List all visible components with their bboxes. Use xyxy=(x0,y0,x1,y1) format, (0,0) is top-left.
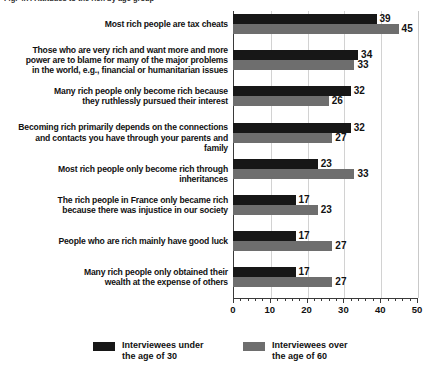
bar-group: 1727 xyxy=(233,231,417,251)
chart-legend: Interviewees under the age of 30 Intervi… xyxy=(0,340,430,380)
category-label: Many rich people only become rich becaus… xyxy=(18,86,228,106)
x-tick-44 xyxy=(395,298,396,301)
category-label: People who are rich mainly have good luc… xyxy=(18,236,228,246)
x-tick-14 xyxy=(285,298,286,301)
bar-over-60[interactable] xyxy=(233,96,329,106)
value-label-under-30: 32 xyxy=(354,86,365,96)
x-tick-label-0: 0 xyxy=(230,304,235,315)
x-axis-line xyxy=(233,298,418,299)
bar-group: 3227 xyxy=(233,123,417,143)
x-tick-label-40: 40 xyxy=(375,304,386,315)
bar-group: 2333 xyxy=(233,159,417,179)
value-label-over-60: 27 xyxy=(335,241,346,251)
x-tick-20 xyxy=(307,298,308,303)
bar-over-60[interactable] xyxy=(233,169,354,179)
bar-group: 1727 xyxy=(233,267,417,287)
bar-group: 1723 xyxy=(233,195,417,215)
value-label-under-30: 23 xyxy=(321,159,332,169)
category-label: The rich people in France only became ri… xyxy=(18,195,228,215)
x-tick-label-30: 30 xyxy=(338,304,349,315)
x-tick-38 xyxy=(373,298,374,301)
x-tick-50 xyxy=(417,298,418,303)
gridline-50 xyxy=(418,11,419,298)
value-label-over-60: 27 xyxy=(335,277,346,287)
x-tick-26 xyxy=(329,298,330,301)
bar-under-30[interactable] xyxy=(233,267,296,277)
x-tick-22 xyxy=(314,298,315,301)
x-tick-48 xyxy=(410,298,411,301)
bar-group: 3433 xyxy=(233,50,417,70)
value-label-under-30: 17 xyxy=(299,195,310,205)
x-tick-30 xyxy=(343,298,344,303)
legend-label-under-30: Interviewees under the age of 30 xyxy=(122,340,204,361)
x-tick-40 xyxy=(380,298,381,303)
bar-over-60[interactable] xyxy=(233,133,332,143)
bar-under-30[interactable] xyxy=(233,123,351,133)
bar-over-60[interactable] xyxy=(233,24,399,34)
value-label-under-30: 17 xyxy=(299,231,310,241)
x-tick-46 xyxy=(402,298,403,301)
legend-label-over-60: Interviewees over the age of 60 xyxy=(272,340,348,361)
x-tick-28 xyxy=(336,298,337,301)
x-tick-4 xyxy=(248,298,249,301)
x-tick-8 xyxy=(262,298,263,301)
x-tick-36 xyxy=(365,298,366,301)
bar-group: 3945 xyxy=(233,14,417,34)
x-tick-18 xyxy=(299,298,300,301)
category-label: Many rich people only obtained theirweal… xyxy=(18,267,228,287)
x-tick-42 xyxy=(388,298,389,301)
bar-over-60[interactable] xyxy=(233,60,354,70)
x-tick-34 xyxy=(358,298,359,301)
bar-under-30[interactable] xyxy=(233,231,296,241)
bar-under-30[interactable] xyxy=(233,50,358,60)
x-tick-32 xyxy=(351,298,352,301)
x-tick-label-20: 20 xyxy=(301,304,312,315)
value-label-over-60: 33 xyxy=(357,60,368,70)
category-label: Most rich people are tax cheats xyxy=(18,19,228,29)
x-tick-label-10: 10 xyxy=(265,304,276,315)
value-label-over-60: 23 xyxy=(321,205,332,215)
legend-item-over-60[interactable]: Interviewees over the age of 60 xyxy=(243,340,348,361)
value-label-over-60: 45 xyxy=(402,24,413,34)
value-label-over-60: 33 xyxy=(357,169,368,179)
value-label-under-30: 17 xyxy=(299,267,310,277)
value-label-under-30: 32 xyxy=(354,123,365,133)
bar-under-30[interactable] xyxy=(233,159,318,169)
bar-over-60[interactable] xyxy=(233,205,318,215)
category-label: Those who are very rich and want more an… xyxy=(18,45,228,76)
category-label: Becoming rich primarily depends on the c… xyxy=(18,122,228,153)
bar-over-60[interactable] xyxy=(233,241,332,251)
x-tick-16 xyxy=(292,298,293,301)
bar-group: 3226 xyxy=(233,86,417,106)
bar-under-30[interactable] xyxy=(233,14,377,24)
x-axis: 01020304050 xyxy=(233,298,418,320)
bar-under-30[interactable] xyxy=(233,195,296,205)
value-label-over-60: 27 xyxy=(335,133,346,143)
x-tick-12 xyxy=(277,298,278,301)
legend-item-under-30[interactable]: Interviewees under the age of 30 xyxy=(93,340,204,361)
cropped-title-label: Fig. 4.7: Attitudes to the rich by age g… xyxy=(4,0,154,2)
x-tick-6 xyxy=(255,298,256,301)
legend-swatch-over-60 xyxy=(243,342,265,351)
category-label: Most rich people only become rich throug… xyxy=(18,164,228,184)
x-tick-label-50: 50 xyxy=(412,304,423,315)
x-tick-0 xyxy=(233,298,234,303)
legend-swatch-under-30 xyxy=(93,342,115,351)
value-label-under-30: 39 xyxy=(380,14,391,24)
horizontal-bar-chart: Most rich people are tax cheatsThose who… xyxy=(0,6,430,311)
x-tick-24 xyxy=(321,298,322,301)
value-label-over-60: 26 xyxy=(332,96,343,106)
x-tick-2 xyxy=(240,298,241,301)
x-tick-10 xyxy=(270,298,271,303)
bar-over-60[interactable] xyxy=(233,277,332,287)
